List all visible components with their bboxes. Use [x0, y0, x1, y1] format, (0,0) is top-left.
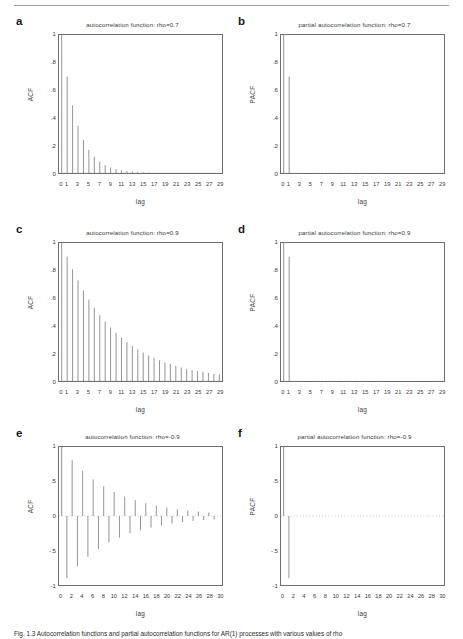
- y-tick-label: 0: [38, 378, 56, 385]
- x-tick-label: 14: [354, 593, 360, 599]
- y-tick-label: .8: [260, 58, 278, 65]
- x-tick-label: 9: [109, 389, 112, 395]
- spike-series: [62, 243, 220, 381]
- x-tick-label: 9: [331, 389, 334, 395]
- x-tick-label: 16: [365, 593, 371, 599]
- x-axis-label: lag: [280, 406, 445, 413]
- x-axis-label: lag: [58, 610, 223, 617]
- spike-series: [284, 447, 289, 578]
- y-tick-labels: 0.2.4.6.81: [258, 34, 278, 174]
- x-tick-labels: 024681012141618202224262830: [58, 588, 223, 602]
- x-tick-label: 7: [98, 181, 101, 187]
- x-tick-label: 14: [132, 593, 138, 599]
- y-tick-label: .2: [260, 142, 278, 149]
- x-tick-label: 4: [302, 593, 305, 599]
- y-tick-label: 1: [38, 442, 56, 449]
- x-tick-labels: 024681012141618202224262830: [280, 588, 445, 602]
- x-tick-label: 7: [320, 181, 323, 187]
- y-tick-labels: -1-.50.51: [36, 446, 56, 586]
- x-tick-label: 25: [195, 389, 201, 395]
- y-axis-label-text: PACF: [250, 85, 257, 103]
- panel-acf-rho-0.9: cautocorrelation function: rho=0.9ACFlag…: [6, 222, 237, 427]
- figure-page: aautocorrelation function: rho=0.7ACFlag…: [0, 0, 463, 639]
- x-tick-label: 24: [185, 593, 191, 599]
- panel-title: partial autocorrelation function: rho=0.…: [228, 21, 459, 28]
- x-tick-label: 10: [111, 593, 117, 599]
- panel-acf-rho-neg-0.9: eautocorrelation function: rho=-0.9ACFla…: [6, 426, 237, 631]
- x-tick-label: 8: [102, 593, 105, 599]
- spike-series: [284, 35, 289, 173]
- y-tick-label: -1: [260, 582, 278, 589]
- x-tick-label: 1: [65, 389, 68, 395]
- x-axis-label: lag: [280, 610, 445, 617]
- x-tick-label: 15: [140, 389, 146, 395]
- plot-area: [280, 242, 445, 382]
- x-tick-label: 18: [375, 593, 381, 599]
- x-tick-label: 7: [98, 389, 101, 395]
- figure-caption: Fig. 1.3 Autocorrelation functions and p…: [14, 629, 451, 639]
- x-tick-label: 11: [340, 389, 346, 395]
- x-tick-label: 2: [70, 593, 73, 599]
- x-tick-label: 13: [129, 389, 135, 395]
- plot-svg: [281, 35, 444, 173]
- x-tick-label: 9: [109, 181, 112, 187]
- x-tick-label: 21: [173, 181, 179, 187]
- x-tick-label: 21: [395, 389, 401, 395]
- x-tick-label: 21: [173, 389, 179, 395]
- x-tick-label: 3: [298, 389, 301, 395]
- x-tick-label: 5: [309, 389, 312, 395]
- x-tick-labels: 01357911131517192123252729: [58, 384, 223, 398]
- y-axis-label-text: ACF: [28, 499, 35, 513]
- x-tick-label: 6: [313, 593, 316, 599]
- x-tick-label: 22: [397, 593, 403, 599]
- x-tick-label: 25: [195, 181, 201, 187]
- panel-pacf-rho-neg-0.9: fpartial autocorrelation function: rho=-…: [228, 426, 459, 631]
- x-tick-label: 19: [384, 389, 390, 395]
- x-tick-labels: 01357911131517192123252729: [280, 384, 445, 398]
- x-tick-label: 17: [373, 181, 379, 187]
- plot-area: [58, 34, 223, 174]
- y-tick-labels: -1-.50.51: [258, 446, 278, 586]
- plot-svg: [59, 243, 222, 381]
- x-tick-label: 13: [351, 181, 357, 187]
- y-tick-label: 0: [38, 170, 56, 177]
- x-tick-label: 23: [406, 181, 412, 187]
- y-tick-label: -.5: [38, 547, 56, 554]
- x-tick-labels: 01357911131517192123252729: [58, 176, 223, 190]
- panel-title: partial autocorrelation function: rho=0.…: [228, 229, 459, 236]
- x-tick-label: 13: [129, 181, 135, 187]
- top-rule-divider: [14, 5, 449, 6]
- panel-title: autocorrelation function: rho=-0.9: [6, 433, 237, 440]
- x-tick-label: 0: [59, 593, 62, 599]
- x-tick-label: 20: [164, 593, 170, 599]
- x-tick-label: 24: [407, 593, 413, 599]
- x-tick-label: 20: [386, 593, 392, 599]
- plot-svg: [281, 447, 444, 585]
- x-tick-label: 3: [76, 389, 79, 395]
- x-tick-label: 15: [362, 181, 368, 187]
- plot-svg: [59, 35, 222, 173]
- x-tick-label: 6: [91, 593, 94, 599]
- panel-pacf-rho-0.7: bpartial autocorrelation function: rho=0…: [228, 14, 459, 219]
- x-tick-label: 27: [206, 181, 212, 187]
- plot-svg: [59, 447, 222, 585]
- x-tick-label: 29: [217, 181, 223, 187]
- y-tick-label: .6: [260, 294, 278, 301]
- x-tick-label: 17: [151, 389, 157, 395]
- x-tick-label: 19: [162, 181, 168, 187]
- x-tick-label: 1: [287, 389, 290, 395]
- x-tick-label: 27: [428, 181, 434, 187]
- x-tick-label: 27: [206, 389, 212, 395]
- x-tick-label: 26: [196, 593, 202, 599]
- y-tick-label: .5: [260, 477, 278, 484]
- x-tick-label: 0: [59, 181, 62, 187]
- plot-svg: [281, 243, 444, 381]
- x-tick-label: 1: [65, 181, 68, 187]
- x-tick-label: 30: [217, 593, 223, 599]
- x-tick-label: 7: [320, 389, 323, 395]
- y-tick-label: 0: [38, 512, 56, 519]
- x-tick-label: 26: [418, 593, 424, 599]
- y-tick-labels: 0.2.4.6.81: [258, 242, 278, 382]
- y-tick-label: .6: [38, 294, 56, 301]
- x-tick-label: 9: [331, 181, 334, 187]
